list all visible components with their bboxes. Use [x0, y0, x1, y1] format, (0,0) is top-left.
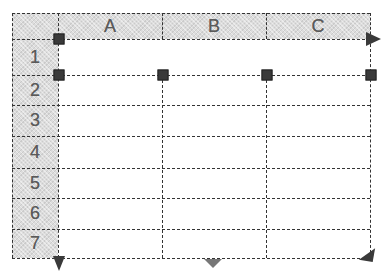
- grid-line-header-bottom: [12, 39, 370, 40]
- grid-line-row2-bottom: [12, 105, 370, 106]
- grid-line-left: [12, 13, 13, 258]
- row-header-5[interactable]: 5: [12, 168, 58, 198]
- row-header-1[interactable]: 1: [12, 39, 58, 75]
- grid-line-col-b-c-header: [266, 13, 267, 39]
- grid-line-row6-bottom: [12, 229, 370, 230]
- handle-row2-top-c[interactable]: [262, 70, 273, 81]
- column-header-a[interactable]: A: [58, 13, 162, 39]
- row-header-7[interactable]: 7: [12, 229, 58, 258]
- grid-line-col-a-b: [162, 75, 163, 258]
- right-arrow-icon[interactable]: [366, 32, 381, 46]
- grid-line-bottom: [12, 258, 370, 259]
- column-header-b[interactable]: B: [162, 13, 266, 39]
- grid-line-col-b-c: [266, 75, 267, 258]
- grid-line-row1-bottom: [12, 75, 370, 76]
- handle-row2-top-left[interactable]: [54, 70, 65, 81]
- grid-line-row4-bottom: [12, 168, 370, 169]
- grid-line-row3-bottom: [12, 136, 370, 137]
- grid-line-row-header-right: [58, 13, 59, 258]
- handle-row2-top-right[interactable]: [366, 70, 377, 81]
- row-header-3[interactable]: 3: [12, 105, 58, 136]
- grid-line-col-a-b-header: [162, 13, 163, 39]
- column-header-c[interactable]: C: [266, 13, 370, 39]
- handle-row2-top-b[interactable]: [158, 70, 169, 81]
- corner-cell: [12, 13, 58, 39]
- row-header-2[interactable]: 2: [12, 75, 58, 105]
- row-header-4[interactable]: 4: [12, 136, 58, 168]
- grid-line-row5-bottom: [12, 198, 370, 199]
- down-arrow-middle-icon[interactable]: [204, 259, 222, 268]
- diagonal-arrow-bottom-right-icon[interactable]: [359, 246, 375, 262]
- row-header-6[interactable]: 6: [12, 198, 58, 229]
- handle-row1-top-left[interactable]: [54, 34, 65, 45]
- down-arrow-left-icon[interactable]: [53, 256, 65, 271]
- grid-line-top: [12, 13, 370, 14]
